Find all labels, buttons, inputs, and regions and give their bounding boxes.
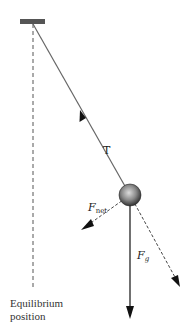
equilibrium-caption: Equilibrium position xyxy=(10,297,63,323)
tension-label: T xyxy=(103,144,111,157)
pendulum-bob xyxy=(119,184,141,206)
gravity-arrowhead-icon xyxy=(126,306,134,319)
gravity-label: Fg xyxy=(136,249,150,263)
equilibrium-caption-line1: Equilibrium xyxy=(10,297,63,310)
radial-component-arrow xyxy=(130,195,176,279)
pendulum-diagram: T Fnet Fg xyxy=(0,0,193,332)
radial-arrowhead-icon xyxy=(171,275,180,287)
net-force-arrowhead-icon xyxy=(81,219,94,230)
net-force-label: Fnet xyxy=(87,201,107,215)
equilibrium-caption-line2: position xyxy=(10,310,63,323)
ceiling-support xyxy=(20,19,45,24)
pendulum-string xyxy=(33,24,130,195)
